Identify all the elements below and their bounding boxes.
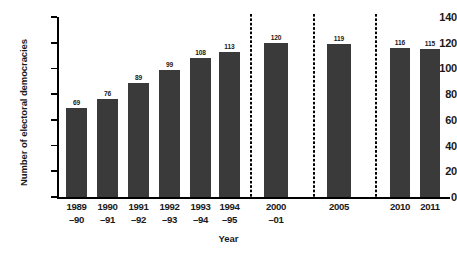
bar bbox=[190, 58, 211, 197]
bar bbox=[159, 70, 180, 197]
axis-break-line bbox=[375, 14, 377, 198]
x-axis-tick-label: 1994–95 bbox=[209, 201, 250, 226]
y-axis-tick bbox=[51, 196, 57, 198]
bar-value-label: 119 bbox=[319, 35, 359, 42]
bar bbox=[420, 49, 440, 197]
y-axis-line bbox=[57, 17, 59, 198]
y-axis-tick bbox=[51, 42, 57, 44]
bar bbox=[390, 48, 410, 197]
bar bbox=[66, 108, 87, 197]
y-axis-tick-label: 140 bbox=[413, 11, 457, 23]
bar-value-label: 89 bbox=[120, 74, 157, 81]
y-axis-tick bbox=[51, 145, 57, 147]
y-axis-tick bbox=[51, 16, 57, 18]
y-axis-tick bbox=[51, 170, 57, 172]
bar-value-label: 115 bbox=[412, 40, 448, 47]
bar-value-label: 76 bbox=[89, 90, 126, 97]
x-axis-title: Year bbox=[0, 233, 457, 244]
bar-value-label: 99 bbox=[151, 61, 188, 68]
y-axis-tick bbox=[51, 119, 57, 121]
bar-value-label: 69 bbox=[58, 99, 95, 106]
y-axis-tick bbox=[51, 93, 57, 95]
bar bbox=[264, 43, 288, 197]
y-axis-tick bbox=[51, 68, 57, 70]
axis-break-line bbox=[250, 14, 252, 198]
y-axis-title: Number of electoral democracies bbox=[18, 23, 29, 203]
bar-chart: Number of electoral democracies 02040608… bbox=[0, 0, 457, 257]
axis-break-line bbox=[313, 14, 315, 198]
x-axis-line bbox=[57, 197, 450, 199]
x-axis-tick-label: 2000–01 bbox=[254, 201, 298, 226]
x-axis-tick-label: 2005 bbox=[317, 201, 361, 214]
bar-value-label: 113 bbox=[211, 43, 248, 50]
bar bbox=[128, 83, 149, 197]
bar bbox=[97, 99, 118, 197]
bar bbox=[327, 44, 351, 197]
bar bbox=[219, 52, 240, 197]
x-axis-tick-label: 2011 bbox=[410, 201, 450, 214]
bar-value-label: 120 bbox=[256, 34, 296, 41]
bar-value-label: 108 bbox=[182, 49, 219, 56]
